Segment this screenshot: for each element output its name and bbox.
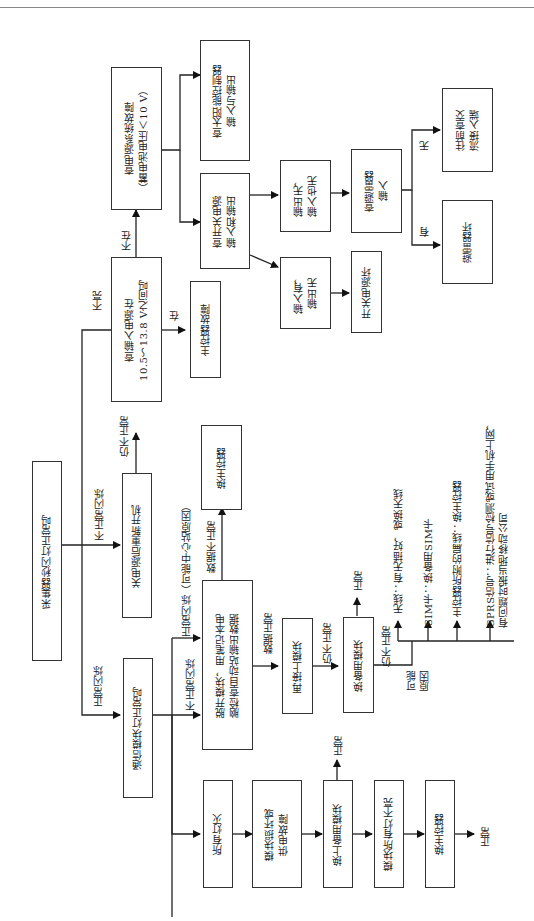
node-main-ctrl-fault: 主控器故障 <box>190 281 221 378</box>
label-still-abnormal-3: 仍不正常 <box>380 625 393 667</box>
label-normal-flash: 正常闪烁 <box>92 665 105 707</box>
node-install-spare-module: 换上备用模块 <box>323 780 353 888</box>
label-still-abnormal-2: 仍不正常 <box>321 622 334 664</box>
label-normal-1: 正常 <box>352 570 365 591</box>
cause-antenna: 无线：有无插好，或换天线 <box>392 488 405 614</box>
label-possible-causes: 可能 原因 <box>405 670 431 691</box>
node-module-or-power-fault: 模块损坏或 供电故障 <box>252 780 302 888</box>
label-none: 无 <box>418 140 431 151</box>
label-normal-3: 正常 <box>479 826 492 847</box>
label-still-abnormal: 仍不正常 <box>118 415 131 457</box>
cause-flat-cable: 主控器所附的扁线：换主控器 <box>451 480 464 617</box>
node-restart: 关电源后重新开机 <box>122 473 152 618</box>
label-in-range: 在 <box>168 310 181 321</box>
node-all-lights-off: 所有灯灭 <box>203 780 233 888</box>
label-not-lit: 不亮 <box>91 290 104 311</box>
label-abnormal-flash: 不正常闪烁 <box>93 488 106 541</box>
node-output-none-input-none: 输出无， 输入也无 <box>280 160 331 232</box>
label-data-normal: 数据正常 <box>262 612 275 654</box>
cause-sim-card: SIM卡：换备用SIM卡 <box>422 518 435 626</box>
node-arrester-broken: 避雷器坏 <box>442 200 493 284</box>
node-power-system-fault: 查电源系统故障 （蓄电池电压＜10 V） <box>111 67 162 210</box>
cause-gprs-signal: GPRS信号：进行信号检测或试用手机上网， 有问题时报当地移动公司 <box>484 418 510 628</box>
label-not-normal-flash: 不正常闪烁 <box>184 658 197 711</box>
node-start: 采集器秒闪灯正常吗 <box>32 461 62 661</box>
label-normal-flash-center: 正常闪烁（可能中心站原因） <box>180 500 193 637</box>
node-check-input: 查输入电源在 10.5～13.8 V之间吗 <box>111 257 162 402</box>
label-not-in-range: 不在 <box>120 230 133 251</box>
node-replace-main-ctrl-2: 换主控器 <box>425 780 455 888</box>
node-reconnect-module: 再接上模块 <box>282 618 313 714</box>
node-unplug-module: 脱开模块，用笔记本电 脑检查自动站输出数据 <box>202 580 253 750</box>
node-module-lights-off: 模块所有灯不亮 <box>374 780 404 888</box>
node-solar-controller: 查太阳能控制器 输入与输出 <box>200 40 250 161</box>
label-data-abnormal: 数据不正常 <box>205 520 218 573</box>
node-switch-psu-broken: 开关电源坏 <box>351 251 382 333</box>
label-normal-2: 正常 <box>332 735 345 756</box>
node-comm-module-ok: 通信模块灯正常吗 <box>123 658 153 798</box>
node-check-ac-input: 往前查交 流接入端 <box>442 88 493 172</box>
node-replace-main-ctrl-1: 换主控器 <box>201 425 242 510</box>
node-replace-spare-module: 换备用模块 <box>343 617 374 713</box>
node-switch-psu: 查开关电源 输入和输出 <box>200 173 250 269</box>
node-check-arrester: 查避雷器 输入 <box>351 149 402 233</box>
label-has: 有 <box>418 226 431 237</box>
node-input-yes-output-none: 输入有， 输出无 <box>280 257 331 329</box>
